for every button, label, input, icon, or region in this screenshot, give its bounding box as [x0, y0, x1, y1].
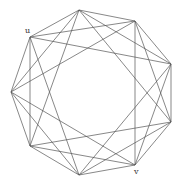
vertex-label-u: u [25, 27, 30, 35]
edge-v6-v7 [11, 92, 30, 146]
edge-v2-v5 [79, 64, 171, 175]
edge-v5-v8 [30, 37, 79, 175]
edge-v2-v4 [135, 64, 171, 165]
edge-v7-v8 [11, 37, 30, 92]
edge-v3-v4 [135, 122, 171, 165]
graph-edges [11, 10, 171, 175]
edge-v8-v1 [30, 21, 135, 37]
vertex-label-v: v [134, 168, 139, 176]
edge-v1-v2 [135, 21, 171, 64]
edge-v0-v1 [79, 10, 135, 21]
edge-v0-v2 [79, 10, 171, 64]
edge-v1-v3 [135, 21, 171, 122]
